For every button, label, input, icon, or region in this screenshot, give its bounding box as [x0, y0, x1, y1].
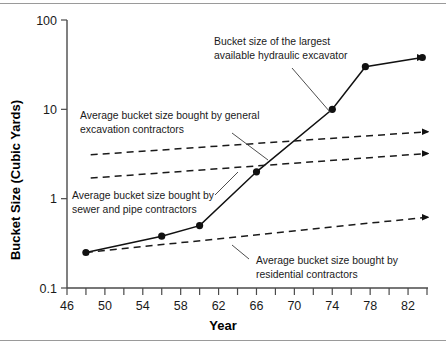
data-point-markers: [82, 54, 426, 256]
annotation-layer: Bucket size of the largestavailable hydr…: [72, 36, 399, 280]
annot-largest-excavator: Bucket size of the largestavailable hydr…: [214, 36, 348, 112]
y-tick-label: 100: [36, 14, 57, 28]
y-tick-label: 10: [43, 103, 57, 117]
data-point: [362, 63, 369, 70]
annotation-text: Bucket size of the largestavailable hydr…: [214, 36, 348, 61]
x-tick-label: 66: [250, 299, 264, 313]
x-tick-label: 46: [60, 299, 74, 313]
x-tick-label: 58: [174, 299, 188, 313]
x-tick-label: 62: [212, 299, 226, 313]
annot-general-excavation: Average bucket size bought by generalexc…: [80, 110, 268, 160]
x-axis-tick-labels: 46505458626670747882: [60, 299, 415, 313]
y-axis-tick-labels: 0.1110100: [36, 14, 57, 296]
x-tick-label: 70: [287, 299, 301, 313]
annotation-text: Average bucket size bought bysewer and p…: [72, 190, 215, 215]
y-axis-ticks: [61, 20, 67, 288]
x-tick-label: 78: [363, 299, 377, 313]
annotation-text: Average bucket size bought byresidential…: [256, 255, 399, 280]
annotation-leader-line: [232, 245, 249, 259]
figure-container: 0.1110100 46505458626670747882 Bucket si…: [0, 0, 446, 350]
y-tick-label: 0.1: [40, 282, 57, 296]
x-axis-ticks: [67, 288, 427, 295]
x-tick-label: 50: [98, 299, 112, 313]
series-line-1: [91, 132, 427, 155]
data-point: [82, 249, 89, 256]
y-axis-title: Bucket Size (Cubic Yards): [8, 100, 23, 260]
data-point: [196, 222, 203, 229]
series-layer: [86, 58, 428, 253]
series-line-0: [86, 58, 422, 253]
top-divider-rule: [0, 3, 446, 4]
series-line-3: [86, 217, 427, 252]
data-point: [419, 54, 426, 61]
data-point: [253, 168, 260, 175]
data-point: [158, 233, 165, 240]
annotation-leader-line: [232, 133, 268, 160]
bucket-size-vs-year-chart: 0.1110100 46505458626670747882 Bucket si…: [0, 0, 446, 350]
annotation-leader-line: [292, 68, 330, 112]
x-tick-label: 54: [136, 299, 150, 313]
y-tick-label: 1: [50, 192, 57, 206]
bottom-divider-rule: [0, 340, 446, 341]
x-axis-title: Year: [209, 318, 236, 333]
x-tick-label: 82: [401, 299, 415, 313]
annotation-text: Average bucket size bought by generalexc…: [80, 110, 259, 135]
annot-residential: Average bucket size bought byresidential…: [232, 245, 399, 280]
x-tick-label: 74: [325, 299, 339, 313]
